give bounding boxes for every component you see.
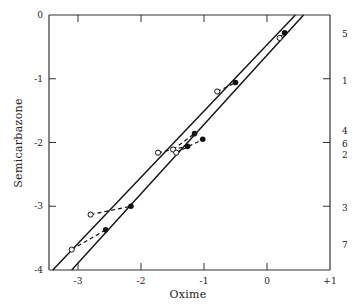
y-tick-label: 0 [37, 10, 43, 20]
right-label: 5 [342, 29, 348, 39]
open-circle-point [277, 35, 282, 40]
x-tick-label: +1 [323, 276, 336, 286]
open-circle-point [174, 150, 179, 155]
right-label: 2 [342, 150, 348, 160]
right-label: 7 [342, 240, 348, 250]
open-circle-point [88, 212, 93, 217]
filled-circle-point [128, 203, 134, 209]
right-label: 1 [342, 76, 348, 86]
plot-frame [49, 15, 330, 270]
regression-lines [53, 15, 304, 270]
y-tick-label: -2 [34, 138, 43, 148]
filled-circle-point [103, 227, 109, 233]
y-axis-ticks: 0-1-2-3-4 [34, 10, 56, 275]
filled-circle-point [233, 80, 239, 86]
y-tick-label: -3 [34, 201, 43, 211]
y-axis-title: Semicarbazone [12, 98, 25, 187]
right-label: 6 [342, 139, 348, 149]
open-circle-point [215, 89, 220, 94]
right-label: 3 [342, 203, 348, 213]
x-tick-label: -2 [137, 276, 146, 286]
x-axis-ticks: -3-2-10+1 [74, 15, 337, 286]
chart: -3-2-10+1 0-1-2-3-4 5146237 Oxime Semica… [0, 0, 359, 306]
x-tick-label: -1 [200, 276, 209, 286]
filled-circle-point [282, 30, 288, 36]
y-tick-label: -1 [34, 74, 43, 84]
x-tick-label: 0 [264, 276, 270, 286]
y-tick-label: -4 [34, 265, 43, 275]
right-labels: 5146237 [323, 29, 348, 249]
x-axis-title: Oxime [169, 288, 206, 301]
filled-circle-point [192, 131, 198, 137]
open-circle-point [69, 247, 74, 252]
dashed-connector [91, 206, 131, 214]
upper-line [53, 15, 296, 270]
filled-circle-point [185, 144, 191, 150]
filled-circle-point [200, 137, 206, 143]
open-circle-point [155, 150, 160, 155]
x-tick-label: -3 [74, 276, 83, 286]
right-label: 4 [342, 126, 348, 136]
